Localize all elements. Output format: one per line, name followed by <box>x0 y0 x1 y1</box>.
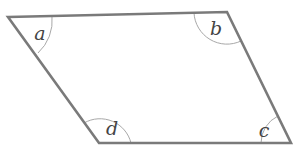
angle-label-c: c <box>259 121 270 140</box>
parallelogram-diagram: a b c d <box>0 0 296 160</box>
angle-label-a: a <box>34 24 45 43</box>
angle-label-d: d <box>106 119 118 138</box>
angle-label-b: b <box>210 19 222 38</box>
